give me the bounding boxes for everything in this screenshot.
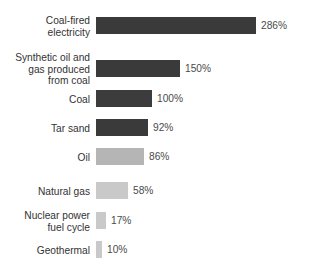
bar-chart: Coal-fired electricity 286% Synthetic oi… — [0, 0, 334, 270]
bar-fill — [96, 60, 180, 77]
category-label: Geothermal — [0, 245, 90, 257]
bar-fill — [96, 148, 144, 165]
category-label: Coal-fired electricity — [0, 15, 90, 38]
bar-value-label: 150% — [185, 62, 211, 75]
bar-value-label: 17% — [111, 214, 131, 227]
bar-track — [96, 17, 256, 34]
bar-track — [96, 119, 148, 136]
bar-value-label: 86% — [149, 150, 169, 163]
bar-fill — [96, 182, 128, 199]
chart-row: Nuclear power fuel cycle 17% — [0, 212, 334, 229]
bar-value-label: 58% — [133, 184, 153, 197]
category-label: Coal — [0, 94, 90, 106]
bar-value-label: 100% — [157, 92, 183, 105]
chart-row: Synthetic oil and gas produced from coal… — [0, 60, 334, 77]
bar-track — [96, 90, 152, 107]
chart-row: Oil 86% — [0, 148, 334, 165]
bar-value-label: 286% — [261, 19, 287, 32]
bar-fill — [96, 90, 152, 107]
bar-fill — [96, 119, 148, 136]
category-label: Natural gas — [0, 186, 90, 198]
bar-track — [96, 212, 106, 229]
chart-row: Geothermal 10% — [0, 241, 334, 258]
chart-row: Coal-fired electricity 286% — [0, 17, 334, 34]
category-label: Tar sand — [0, 123, 90, 135]
bar-fill — [96, 17, 256, 34]
bar-value-label: 10% — [107, 243, 127, 256]
bar-track — [96, 182, 128, 199]
bar-track — [96, 241, 102, 258]
bar-fill — [96, 212, 106, 229]
bar-value-label: 92% — [153, 121, 173, 134]
category-label: Oil — [0, 152, 90, 164]
chart-row: Coal 100% — [0, 90, 334, 107]
chart-row: Tar sand 92% — [0, 119, 334, 136]
bar-fill — [96, 241, 102, 258]
chart-row: Natural gas 58% — [0, 182, 334, 199]
bar-track — [96, 60, 180, 77]
bar-track — [96, 148, 144, 165]
category-label: Nuclear power fuel cycle — [0, 210, 90, 233]
category-label: Synthetic oil and gas produced from coal — [0, 52, 90, 87]
